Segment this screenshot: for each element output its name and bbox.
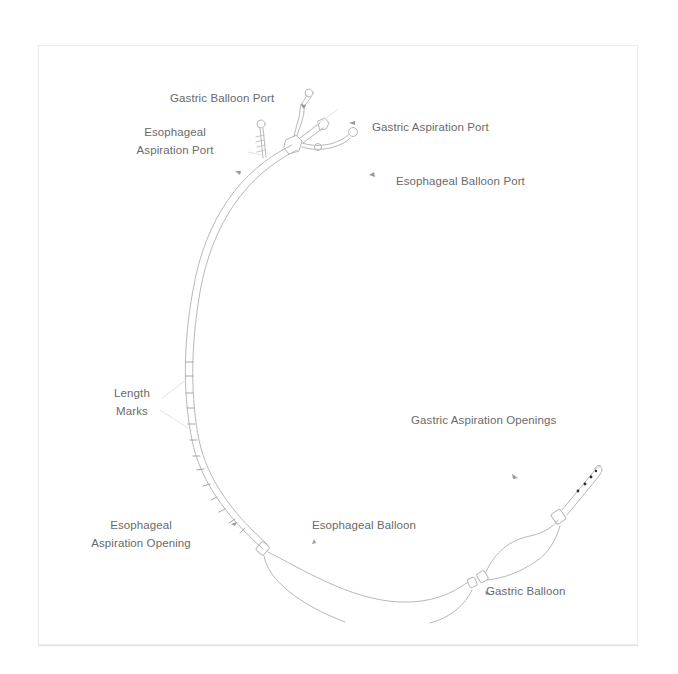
label-gastric-balloon: Gastric Balloon <box>486 582 565 600</box>
esophageal-balloon-icon <box>264 552 472 623</box>
label-text-line1: Esophageal <box>81 516 201 534</box>
label-text: Gastric Balloon Port <box>170 89 274 107</box>
label-esophageal-balloon: Esophageal Balloon <box>312 516 416 534</box>
gastric-balloon-icon <box>486 520 560 580</box>
label-text: Esophageal Balloon Port <box>396 172 525 190</box>
main-tube-icon <box>185 145 297 548</box>
label-text-line1: Length <box>104 384 160 402</box>
arrow-gastric-aspiration-port-icon <box>349 121 355 125</box>
middle-connector-icon <box>467 577 478 589</box>
arrow-esophageal-balloon-port-icon <box>369 172 375 177</box>
label-text-line2: Aspiration Port <box>134 141 216 159</box>
label-esophageal-balloon-port: Esophageal Balloon Port <box>396 172 525 190</box>
label-text-line2: Aspiration Opening <box>81 534 201 552</box>
arrow-esophageal-aspiration-port-icon <box>235 171 241 175</box>
label-text: Gastric Aspiration Port <box>372 118 489 136</box>
gastric-collar-upper-icon <box>550 509 566 525</box>
arrow-esophageal-aspiration-opening-icon <box>231 522 237 526</box>
distal-tube-icon <box>562 465 602 515</box>
arrow-esophageal-balloon-icon <box>312 539 316 544</box>
arrow-gastric-aspiration-openings-icon <box>512 474 518 479</box>
esophageal-collar-icon <box>255 541 270 556</box>
label-esophageal-aspiration-port: Esophageal Aspiration Port <box>134 123 216 159</box>
label-gastric-aspiration-openings: Gastric Aspiration Openings <box>411 411 556 429</box>
length-marks-icon <box>186 362 245 533</box>
esophageal-balloon-port-icon <box>302 128 358 151</box>
label-gastric-aspiration-port: Gastric Aspiration Port <box>372 118 489 136</box>
label-esophageal-aspiration-opening: Esophageal Aspiration Opening <box>81 516 201 552</box>
label-text-line1: Esophageal <box>134 123 216 141</box>
tube-illustration <box>0 0 678 674</box>
label-length-marks: Length Marks <box>104 384 160 420</box>
label-text: Gastric Aspiration Openings <box>411 411 556 429</box>
label-text: Gastric Balloon <box>486 582 565 600</box>
label-text: Esophageal Balloon <box>312 516 416 534</box>
label-text-line2: Marks <box>104 402 160 420</box>
esophageal-aspiration-port-icon <box>256 120 266 158</box>
label-gastric-balloon-port: Gastric Balloon Port <box>170 89 274 107</box>
